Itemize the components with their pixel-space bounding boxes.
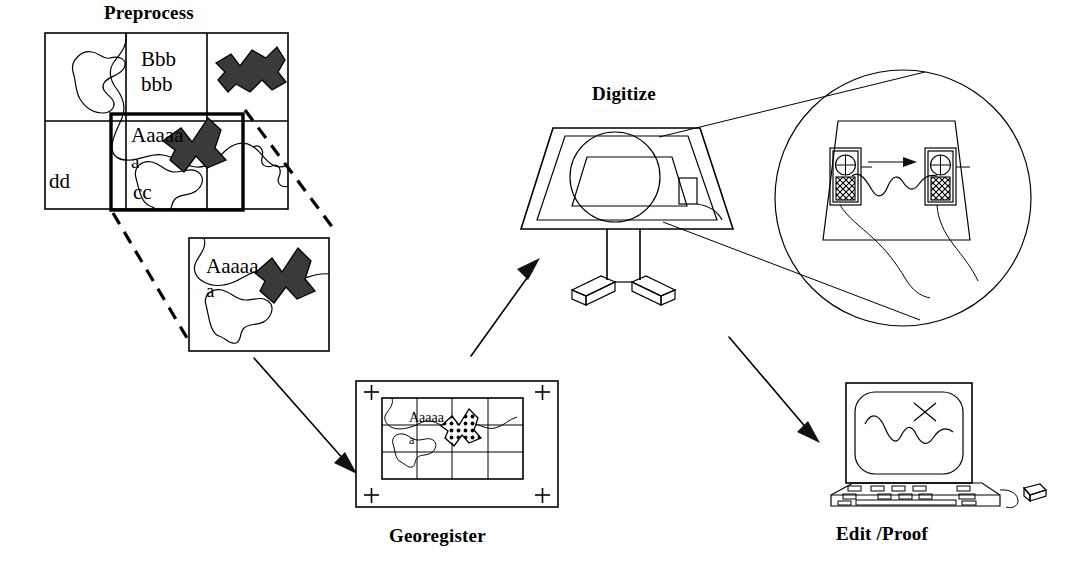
tablet-active-area xyxy=(572,157,687,206)
flow-arrow-2-head xyxy=(517,258,540,280)
geo-annotation-Aaaaa: Aaaaa xyxy=(409,410,445,425)
georegister-sheet: Aaaaa a xyxy=(356,381,558,507)
stage-label-georegister: Georegister xyxy=(389,525,486,547)
flow-arrow-3-head xyxy=(797,421,820,443)
detail-annotation-a: a xyxy=(206,280,215,301)
map-annotation-bbb: bbb xyxy=(141,72,173,96)
diagram-canvas: Bbb bbb dd Aaaaa a cc Aaaaa a xyxy=(0,0,1069,582)
map-annotation-a: a xyxy=(131,151,140,172)
map-annotation-dd: dd xyxy=(49,169,71,193)
tablet-base-foot-left xyxy=(572,276,615,305)
mouse xyxy=(1000,484,1046,508)
tablet-cable xyxy=(697,204,722,220)
digitize-tablet-station xyxy=(521,128,733,305)
editproof-workstation xyxy=(831,383,1046,508)
flow-arrow-georegister-to-digitize xyxy=(471,258,540,356)
flow-arrow-1-head xyxy=(334,452,357,474)
preprocess-detail-panel: Aaaaa a xyxy=(189,238,329,351)
map-annotation-Bbb: Bbb xyxy=(141,47,176,71)
magnifier-tangent-lower xyxy=(663,222,920,320)
tablet-pedestal-column xyxy=(607,229,640,280)
monitor-body xyxy=(846,383,972,483)
puck-motion-arrow xyxy=(868,157,917,167)
magnifier-callout-lines xyxy=(659,72,925,320)
traced-line-segment xyxy=(852,174,937,196)
flow-arrow-preprocess-to-georegister xyxy=(254,358,357,474)
magnifier-circle-outline xyxy=(775,70,1031,326)
stage-label-digitize: Digitize xyxy=(592,83,656,105)
map-annotation-cc: cc xyxy=(133,180,152,204)
puck-cable-left xyxy=(840,205,930,298)
flow-arrow-digitize-to-editproof xyxy=(729,337,820,443)
map-annotation-Aaaaa: Aaaaa xyxy=(131,123,184,147)
workflow-diagram: Bbb bbb dd Aaaaa a cc Aaaaa a xyxy=(0,0,1069,582)
detail-annotation-Aaaaa: Aaaaa xyxy=(206,254,259,278)
digitizer-puck-left xyxy=(830,148,872,205)
tablet-magnify-region-circle xyxy=(570,132,660,222)
digitizer-puck-right xyxy=(925,148,970,205)
magnifier-detail-circle xyxy=(775,70,1031,326)
keyboard xyxy=(831,483,1000,506)
stage-label-preprocess: Preprocess xyxy=(104,2,194,24)
stage-label-editproof: Edit /Proof xyxy=(836,523,928,545)
tablet-outer-surface xyxy=(521,128,733,229)
geo-annotation-a: a xyxy=(409,433,415,447)
tablet-base-foot-right xyxy=(632,276,675,305)
callout-dash-lower xyxy=(113,213,190,343)
puck-cable-right xyxy=(937,205,978,281)
magnifier-tangent-upper xyxy=(659,72,925,137)
tablet-puck-at-rest xyxy=(679,178,697,204)
preprocess-map-sheet: Bbb bbb dd Aaaaa a cc xyxy=(45,33,296,213)
